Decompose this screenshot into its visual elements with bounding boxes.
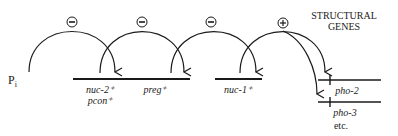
gene-label-pho-2: pho-2 (334, 85, 358, 96)
gene-label-pcon: pcon⁺ (87, 95, 113, 106)
pi-label: Pi (8, 73, 18, 89)
inhibition-arrow-1 (29, 32, 115, 73)
gene-label-pho-3: pho-3 (332, 107, 356, 118)
plus-icon (278, 18, 288, 28)
gene-label-nuc-1: nuc-1⁺ (224, 84, 253, 95)
etc-label: etc. (334, 120, 348, 131)
gene-label-preg: preg⁺ (143, 84, 168, 95)
regulatory-cascade-diagram: Pi STRUCTURAL GENES nuc-2⁺ pcon⁺ preg⁺ n… (0, 0, 398, 136)
minus-icon (137, 17, 147, 27)
minus-icon (67, 17, 77, 27)
structural-genes-header-line2: GENES (328, 21, 360, 32)
gene-label-nuc-2: nuc-2⁺ (86, 84, 115, 95)
minus-icon (206, 17, 216, 27)
structural-genes-header-line1: STRUCTURAL (311, 10, 377, 21)
activation-arrow-pho-3 (283, 31, 317, 94)
